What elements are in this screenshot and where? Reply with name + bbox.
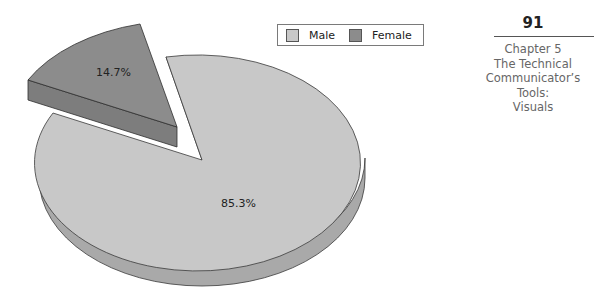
legend-label-female: Female	[372, 29, 412, 42]
chapter-line-2: The Technical	[484, 57, 582, 72]
divider	[494, 36, 594, 37]
chapter-line-4: Tools:	[484, 86, 582, 101]
male-slice-label: 85.3%	[221, 197, 256, 210]
legend-swatch-male	[286, 29, 299, 42]
page-number: 91	[484, 14, 582, 32]
legend-swatch-female	[349, 29, 362, 42]
chart-legend: Male Female	[277, 24, 424, 46]
page-sidebar: 91 Chapter 5 The Technical Communicator’…	[470, 14, 582, 115]
legend-label-male: Male	[309, 29, 335, 42]
legend-item-female: Female	[349, 29, 412, 42]
female-slice-label: 14.7%	[96, 66, 131, 79]
chapter-line-1: Chapter 5	[484, 42, 582, 57]
legend-item-male: Male	[286, 29, 335, 42]
chapter-line-3: Communicator’s	[484, 71, 582, 86]
chapter-line-5: Visuals	[484, 100, 582, 115]
